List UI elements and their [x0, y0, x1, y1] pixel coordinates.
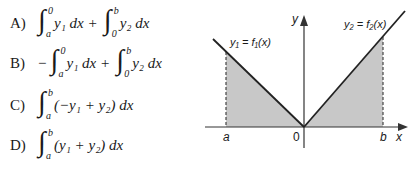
y-axis-arrow-icon	[300, 15, 308, 26]
a-label: a	[223, 130, 230, 144]
y-axis-label: y	[292, 12, 298, 26]
x-axis-label: x	[396, 130, 402, 144]
curve1-label: y₁ = f₁(x)	[230, 36, 271, 48]
origin-label: 0	[293, 130, 300, 144]
curve2-label: y₂ = f₂(x)	[344, 18, 386, 30]
b-label: b	[380, 130, 387, 144]
